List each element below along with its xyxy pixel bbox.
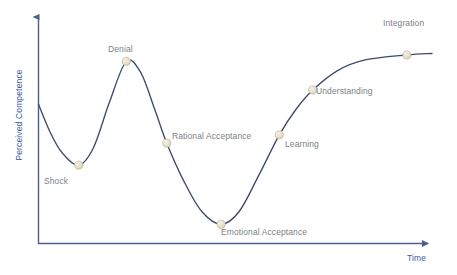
point-label-understanding: Understanding — [316, 86, 373, 96]
point-label-learning: Learning — [285, 139, 319, 149]
data-point-denial — [122, 57, 130, 65]
y-axis-title: Perceived Competence — [14, 60, 24, 170]
x-axis-title: Time — [407, 253, 426, 263]
point-label-rational-acceptance: Rational Acceptance — [172, 131, 251, 141]
chart-canvas: Perceived Competence Time Shock Denial R… — [0, 0, 457, 275]
point-label-denial: Denial — [108, 44, 133, 54]
point-label-shock: Shock — [44, 176, 68, 186]
data-point-shock — [75, 161, 83, 169]
data-point-learning — [275, 131, 283, 139]
point-label-emotional-acceptance: Emotional Acceptance — [221, 227, 307, 237]
data-point-integration — [403, 51, 411, 59]
point-label-integration: Integration — [383, 18, 424, 28]
data-point-rational-acceptance — [163, 139, 171, 147]
